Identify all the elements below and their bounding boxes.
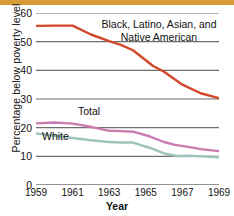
series-label-minority-line1: Black, Latino, Asian, and — [88, 18, 230, 31]
chart-figure: Percentage below poverty level 010203040… — [0, 0, 234, 216]
x-tick-label: 1961 — [61, 187, 83, 198]
top-decorative-rule — [0, 0, 234, 5]
x-tick-label: 1963 — [98, 187, 120, 198]
y-tick-label: 20 — [20, 122, 32, 134]
series-label-minority: Black, Latino, Asian, and Native America… — [88, 18, 230, 43]
y-tick-label: 40 — [20, 64, 32, 76]
series-label-minority-line2: Native American — [88, 31, 230, 44]
x-axis-title: Year — [0, 200, 234, 212]
y-tick-label: 30 — [20, 93, 32, 105]
x-tick-label: 1965 — [135, 187, 157, 198]
series-label-total: Total — [78, 105, 100, 117]
x-tick-label: 1967 — [171, 187, 193, 198]
y-tick-label: 60 — [20, 7, 32, 19]
y-tick-label: 10 — [20, 150, 32, 162]
series-label-white: White — [42, 130, 69, 142]
x-tick-label: 1959 — [25, 187, 47, 198]
x-tick-label: 1969 — [208, 187, 230, 198]
y-tick-label: 50 — [20, 36, 32, 48]
